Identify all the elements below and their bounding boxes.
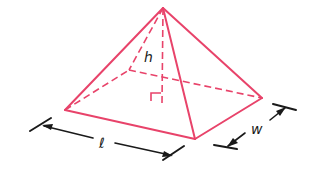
height-line bbox=[162, 8, 163, 103]
edge-base-front bbox=[65, 110, 195, 139]
height-label: h bbox=[144, 49, 153, 65]
length-label: ℓ bbox=[98, 135, 105, 151]
right-angle-icon bbox=[151, 93, 161, 101]
length-dimension bbox=[30, 118, 184, 160]
arrow-left-icon bbox=[42, 124, 53, 130]
width-label: w bbox=[251, 121, 263, 137]
hidden-edge-base-back bbox=[129, 70, 262, 98]
edge-apex-front-right bbox=[163, 8, 195, 139]
visible-edges bbox=[65, 8, 262, 139]
edge-apex-back-right bbox=[163, 8, 262, 98]
length-line-right bbox=[115, 143, 170, 155]
hidden-edges bbox=[65, 8, 262, 110]
width-tick-bottom bbox=[214, 145, 237, 149]
pyramid-diagram: h ℓ w bbox=[0, 0, 320, 170]
